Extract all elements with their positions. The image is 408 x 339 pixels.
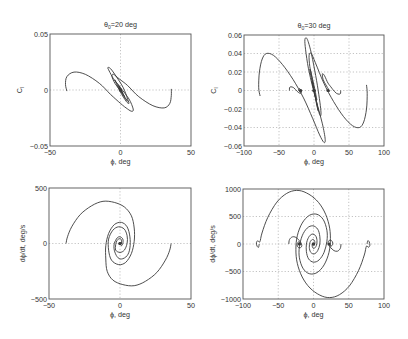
y-tick-label: 0: [237, 240, 241, 249]
y-tick-label: −500: [225, 267, 241, 276]
y-tick-label: 0: [44, 86, 48, 95]
y-tick-label: 0.02: [228, 68, 242, 77]
y-tick-label: −0.02: [224, 105, 242, 114]
x-axis-label: ϕ, deg: [110, 310, 130, 319]
equilibrium-cluster: [299, 89, 302, 92]
x-tick-label: 100: [378, 301, 390, 310]
x-tick-label: −50: [273, 148, 285, 157]
x-axis-label: ϕ, deg: [304, 157, 324, 166]
y-axis-label: dϕ/dt, deg/s: [18, 224, 27, 262]
y-axis-label: dϕ/dt, deg/s: [208, 225, 217, 263]
x-tick-label: 0: [312, 148, 316, 157]
figure-background: [0, 0, 408, 339]
x-tick-label: 50: [187, 301, 195, 310]
y-tick-label: −1000: [221, 295, 241, 304]
equilibrium-cluster: [312, 242, 315, 245]
x-tick-label: 0: [118, 301, 122, 310]
equilibrium-cluster: [326, 89, 329, 92]
x-tick-label: 100: [378, 148, 390, 157]
equilibrium-cluster: [312, 89, 315, 92]
y-tick-label: 0.04: [228, 49, 242, 58]
equilibrium-cluster: [327, 242, 330, 245]
equilibrium-cluster: [298, 242, 301, 245]
y-tick-label: 500: [229, 212, 241, 221]
x-axis-label: ϕ, deg: [110, 157, 130, 166]
y-tick-label: −0.06: [224, 142, 242, 151]
x-tick-label: 50: [187, 148, 195, 157]
y-tick-label: 0: [238, 86, 242, 95]
y-tick-label: −500: [31, 295, 47, 304]
x-tick-label: 0: [119, 148, 123, 157]
figure: −50050−0.0500.05 θ0=20 deg ϕ, deg Cl −10…: [0, 0, 408, 339]
y-tick-label: −0.04: [224, 123, 242, 132]
y-tick-label: 1000: [225, 185, 241, 194]
x-axis-label: ϕ, deg: [303, 310, 323, 319]
y-tick-label: 0: [43, 239, 47, 248]
y-tick-label: 0.05: [34, 30, 48, 39]
x-tick-label: 50: [345, 148, 353, 157]
x-tick-label: −50: [272, 301, 284, 310]
equilibrium-cluster: [118, 242, 121, 245]
y-tick-label: 0.06: [228, 31, 242, 40]
x-tick-label: 0: [312, 301, 316, 310]
y-tick-label: −0.05: [30, 142, 48, 151]
x-tick-label: 50: [345, 301, 353, 310]
equilibrium-cluster: [119, 88, 122, 91]
y-tick-label: 500: [35, 184, 47, 193]
